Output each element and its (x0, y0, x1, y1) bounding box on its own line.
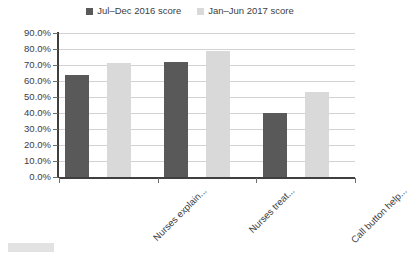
gridline (59, 33, 355, 34)
y-axis-tick-label: 20.0% (24, 140, 51, 150)
x-axis-tick (355, 178, 356, 183)
y-axis-tick (53, 145, 58, 146)
x-axis-tick-label: Nurses explain... (151, 185, 209, 243)
bar[interactable] (263, 113, 287, 177)
x-axis-baseline (59, 177, 355, 179)
footer-artifact (8, 243, 54, 252)
x-axis-tick-label: Call button help... (349, 185, 409, 245)
bar[interactable] (305, 92, 329, 177)
y-axis-tick-label: 0.0% (29, 172, 51, 182)
y-axis-tick-label: 70.0% (24, 60, 51, 70)
y-axis-tick (53, 49, 58, 50)
y-axis-tick (53, 33, 58, 34)
y-axis-tick-label: 50.0% (24, 92, 51, 102)
x-axis-tick (59, 178, 60, 183)
chart-legend: Jul–Dec 2016 score Jan–Jun 2017 score (0, 6, 380, 16)
legend-label-series-2: Jan–Jun 2017 score (208, 6, 294, 16)
y-axis-tick (53, 81, 58, 82)
y-axis-tick (53, 161, 58, 162)
legend-label-series-1: Jul–Dec 2016 score (97, 6, 181, 16)
legend-swatch-icon-series-2 (197, 8, 204, 15)
y-axis-tick-label: 90.0% (24, 28, 51, 38)
y-axis-tick-label: 40.0% (24, 108, 51, 118)
legend-swatch-icon-series-1 (86, 8, 93, 15)
legend-entry-jan-jun-2017[interactable]: Jan–Jun 2017 score (197, 6, 294, 16)
bar[interactable] (107, 63, 131, 177)
y-axis-tick-label: 10.0% (24, 156, 51, 166)
plot-area (59, 33, 355, 177)
legend-entry-jul-dec-2016[interactable]: Jul–Dec 2016 score (86, 6, 181, 16)
y-axis-tick-label: 80.0% (24, 44, 51, 54)
y-axis-tick (53, 65, 58, 66)
bar[interactable] (206, 51, 230, 177)
bar[interactable] (65, 75, 89, 177)
y-axis-tick-label: 30.0% (24, 124, 51, 134)
y-axis-tick (53, 129, 58, 130)
y-axis-tick-label: 60.0% (24, 76, 51, 86)
y-axis-tick (53, 177, 58, 178)
x-axis-tick (158, 178, 159, 183)
bar[interactable] (164, 62, 188, 177)
y-axis-tick (53, 97, 58, 98)
y-axis-tick (53, 113, 58, 114)
x-axis-tick-label: Nurses treat... (246, 185, 296, 235)
x-axis-tick (256, 178, 257, 183)
